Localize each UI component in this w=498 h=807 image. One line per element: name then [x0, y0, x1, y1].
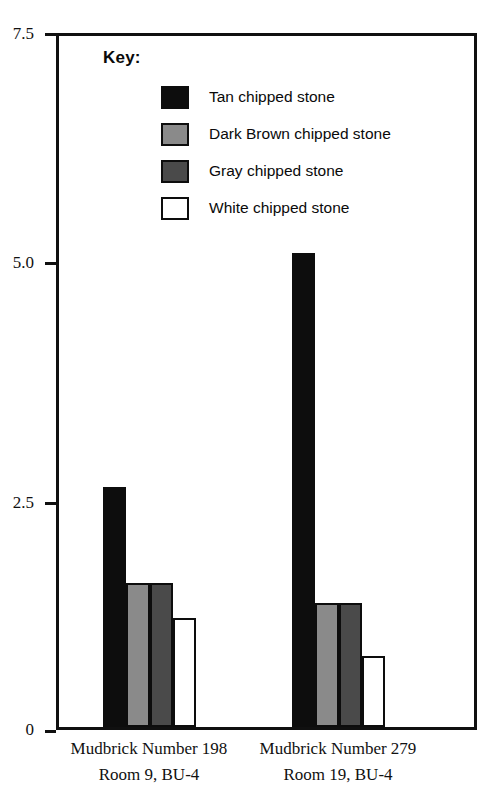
- legend-item-gray: Gray chipped stone: [161, 156, 433, 186]
- x-category-line1-0: Mudbrick Number 198: [39, 736, 259, 762]
- y-tick-mark-5.0: [45, 262, 56, 265]
- legend-title: Key:: [103, 48, 433, 68]
- bar-1-1: [315, 603, 338, 727]
- y-tick-mark-2.5: [45, 502, 56, 505]
- legend-item-dark-brown: Dark Brown chipped stone: [161, 119, 433, 149]
- legend: Key: Tan chipped stone Dark Brown chippe…: [103, 48, 433, 230]
- legend-label-tan: Tan chipped stone: [209, 88, 335, 106]
- bar-0-0: [103, 487, 126, 727]
- y-tick-label-2.5: 2.5: [13, 494, 34, 511]
- bar-0-2: [150, 583, 173, 727]
- bar-chart: 7.5 5.0 2.5 0 Key: Tan chipped stone Dar…: [0, 0, 498, 807]
- x-category-line1-1: Mudbrick Number 279: [228, 736, 448, 762]
- legend-item-white: White chipped stone: [161, 193, 433, 223]
- bar-1-0: [292, 253, 315, 727]
- x-category-line2-1: Room 19, BU-4: [228, 762, 448, 788]
- y-tick-mark-0: [45, 730, 56, 733]
- y-tick-mark-7.5: [45, 33, 56, 36]
- legend-swatch-gray-icon: [161, 160, 189, 183]
- y-axis: 7.5 5.0 2.5 0: [0, 0, 56, 807]
- y-tick-label-7.5: 7.5: [13, 25, 34, 42]
- bar-1-2: [339, 603, 362, 727]
- y-tick-label-0: 0: [26, 721, 35, 738]
- legend-swatch-tan-icon: [161, 86, 189, 109]
- legend-swatch-dark-brown-icon: [161, 123, 189, 146]
- x-category-label-0: Mudbrick Number 198 Room 9, BU-4: [39, 736, 259, 789]
- legend-item-tan: Tan chipped stone: [161, 82, 433, 112]
- legend-label-white: White chipped stone: [209, 199, 349, 217]
- y-tick-label-5.0: 5.0: [13, 254, 34, 271]
- legend-items: Tan chipped stone Dark Brown chipped sto…: [161, 82, 433, 223]
- legend-label-dark-brown: Dark Brown chipped stone: [209, 125, 391, 143]
- bar-1-3: [362, 656, 385, 727]
- bar-0-1: [126, 583, 149, 727]
- legend-label-gray: Gray chipped stone: [209, 162, 343, 180]
- x-category-label-1: Mudbrick Number 279 Room 19, BU-4: [228, 736, 448, 789]
- legend-swatch-white-icon: [161, 197, 189, 220]
- bar-0-3: [173, 618, 196, 727]
- x-category-line2-0: Room 9, BU-4: [39, 762, 259, 788]
